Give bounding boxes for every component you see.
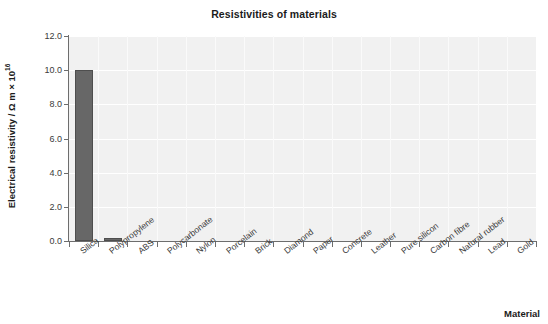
- y-axis-tick-label: 6.0: [18, 134, 62, 144]
- x-axis-title: Material: [504, 308, 540, 319]
- x-axis-tick: [127, 242, 128, 247]
- chart-figure: Resistivities of materials Electrical re…: [0, 0, 548, 324]
- vertical-gridline: [273, 36, 274, 241]
- y-axis-tick: [64, 241, 68, 242]
- x-axis-tick: [98, 242, 99, 247]
- vertical-gridline: [186, 36, 187, 241]
- y-axis-title-exponent: 16: [4, 64, 11, 71]
- bar: [75, 70, 93, 241]
- vertical-gridline: [332, 36, 333, 241]
- x-axis-tick: [332, 242, 333, 247]
- plot-area: [69, 36, 536, 241]
- vertical-gridline: [448, 36, 449, 241]
- y-axis-tick: [64, 36, 68, 37]
- x-axis-tick: [186, 242, 187, 247]
- vertical-gridline: [361, 36, 362, 241]
- y-axis-title-label: Electrical resistivity / Ω m × 10: [6, 71, 17, 208]
- y-axis-tick: [64, 207, 68, 208]
- chart-title: Resistivities of materials: [0, 8, 548, 20]
- y-axis-line: [68, 35, 69, 242]
- y-axis-tick-label: 10.0: [18, 65, 62, 75]
- vertical-gridline: [507, 36, 508, 241]
- x-axis-tick: [448, 242, 449, 247]
- x-axis-tick: [536, 242, 537, 247]
- vertical-gridline: [303, 36, 304, 241]
- vertical-gridline: [98, 36, 99, 241]
- x-axis-tick-labels: SilicaPolypropyleneABSPolycarbonateNylon…: [0, 244, 548, 304]
- x-axis-tick: [244, 242, 245, 247]
- vertical-gridline: [244, 36, 245, 241]
- vertical-gridline: [157, 36, 158, 241]
- y-axis-title-text: Electrical resistivity / Ω m × 1016: [6, 64, 17, 209]
- x-axis-tick: [215, 242, 216, 247]
- x-axis-tick: [303, 242, 304, 247]
- x-axis-tick: [273, 242, 274, 247]
- y-axis-tick-label: 2.0: [18, 202, 62, 212]
- y-axis-tick: [64, 104, 68, 105]
- x-axis-tick: [361, 242, 362, 247]
- x-axis-tick: [69, 242, 70, 247]
- y-axis-tick: [64, 139, 68, 140]
- y-axis-tick-label: 8.0: [18, 99, 62, 109]
- x-axis-tick: [478, 242, 479, 247]
- vertical-gridline: [419, 36, 420, 241]
- y-axis-tick: [64, 173, 68, 174]
- vertical-gridline: [127, 36, 128, 241]
- vertical-gridline: [215, 36, 216, 241]
- x-axis-tick: [419, 242, 420, 247]
- y-axis-tick: [64, 70, 68, 71]
- y-axis-tick-label: 12.0: [18, 31, 62, 41]
- x-axis-tick: [157, 242, 158, 247]
- vertical-gridline: [478, 36, 479, 241]
- x-axis-tick: [507, 242, 508, 247]
- vertical-gridline: [390, 36, 391, 241]
- x-axis-tick: [390, 242, 391, 247]
- y-axis-tick-label: 4.0: [18, 168, 62, 178]
